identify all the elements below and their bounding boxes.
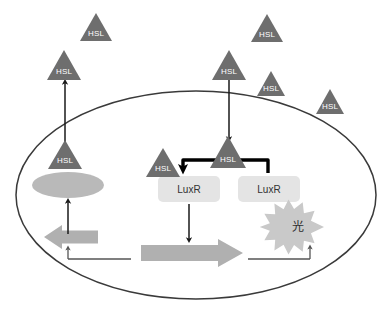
light-character-label: 光 <box>292 220 304 234</box>
hsl-extracellular-left: HSL <box>47 50 81 80</box>
hsl-label: HSL <box>57 156 74 165</box>
hsl-extracellular-far-right: HSL <box>316 89 344 114</box>
hsl-label: HSL <box>322 102 339 111</box>
hsl-extracellular-top-left: HSL <box>80 13 112 41</box>
hsl-label: HSL <box>155 164 172 173</box>
hsl-label: HSL <box>88 29 105 38</box>
luxr-monomer-right: LuxR <box>238 176 300 202</box>
hsl-label: HSL <box>56 67 73 76</box>
luxr-monomer-left: LuxR <box>158 176 220 202</box>
hsl-label: HSL <box>221 67 238 76</box>
luxr-right-label: LuxR <box>257 184 280 195</box>
luxr-left-label: LuxR <box>177 184 200 195</box>
hsl-label: HSL <box>259 30 276 39</box>
hsl-extracellular-right: HSL <box>257 71 285 96</box>
quorum-sensing-diagram: LuxR LuxR 光 HSL HSL HSL <box>0 0 392 324</box>
hsl-label: HSL <box>220 155 237 164</box>
hsl-extracellular-top-right: HSL <box>251 14 283 42</box>
luxi-enzyme <box>32 172 104 198</box>
hsl-extracellular-inflow: HSL <box>212 50 246 80</box>
hsl-label: HSL <box>263 84 280 93</box>
diagram-canvas: LuxR LuxR 光 HSL HSL HSL <box>0 0 392 324</box>
